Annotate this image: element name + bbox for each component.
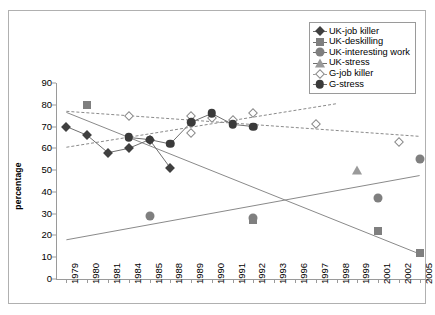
y-tick-label: 80 xyxy=(41,100,52,110)
legend-item[interactable]: UK-deskilling xyxy=(313,37,410,48)
legend-item-label: UK-stress xyxy=(329,58,370,67)
x-tick-label: 1992 xyxy=(257,263,267,284)
data-point xyxy=(124,133,133,142)
y-tick-label: 20 xyxy=(41,231,52,241)
x-tick-label: 1989 xyxy=(195,263,205,284)
data-point xyxy=(228,120,237,129)
data-point xyxy=(415,155,424,164)
legend-marker-glyph xyxy=(316,80,325,89)
legend-marker-icon xyxy=(313,37,327,47)
x-tick-mark xyxy=(378,279,379,283)
x-tick-label: 1988 xyxy=(174,263,184,284)
x-tick-mark xyxy=(66,279,67,283)
data-point xyxy=(249,214,258,223)
legend-marker-icon xyxy=(313,79,327,89)
data-point xyxy=(145,135,154,144)
legend-marker-icon xyxy=(313,69,327,79)
trendline xyxy=(66,111,419,136)
y-tick-label: 10 xyxy=(41,252,52,262)
legend-marker-icon xyxy=(313,26,327,36)
legend-item-label: G-job killer xyxy=(329,69,373,78)
trendline xyxy=(66,176,419,240)
y-axis-title: percentage xyxy=(13,162,23,209)
legend-marker-glyph xyxy=(315,59,325,68)
x-tick-mark xyxy=(212,279,213,283)
legend-item[interactable]: G-job killer xyxy=(313,68,410,79)
y-tick-label: 90 xyxy=(41,78,52,88)
x-tick-label: 1984 xyxy=(133,263,143,284)
legend-item[interactable]: G-stress xyxy=(313,79,410,90)
legend-item-label: UK-interesting work xyxy=(329,48,410,57)
data-point xyxy=(374,227,382,235)
legend-marker-glyph xyxy=(316,38,324,46)
legend-item[interactable]: UK-stress xyxy=(313,58,410,69)
x-tick-label: 1990 xyxy=(216,263,226,284)
data-point xyxy=(166,140,175,149)
x-tick-mark xyxy=(170,279,171,283)
x-tick-label: 1998 xyxy=(341,263,351,284)
chart-legend: UK-job killerUK-deskillingUK-interesting… xyxy=(309,22,416,94)
x-tick-mark xyxy=(274,279,275,283)
x-tick-label: 2002 xyxy=(403,263,413,284)
x-tick-label: 1981 xyxy=(112,263,122,284)
data-point xyxy=(249,122,258,131)
chart-frame: percentage 9080706050403020100 197919801… xyxy=(8,10,426,304)
x-tick-label: 1980 xyxy=(91,263,101,284)
x-tick-mark xyxy=(399,279,400,283)
x-tick-mark xyxy=(87,279,88,283)
x-tick-label: 1997 xyxy=(320,263,330,284)
x-tick-mark xyxy=(316,279,317,283)
data-point xyxy=(416,249,424,257)
x-tick-mark xyxy=(357,279,358,283)
x-tick-label: 2001 xyxy=(382,263,392,284)
legend-item[interactable]: UK-job killer xyxy=(313,26,410,37)
x-tick-label: 1993 xyxy=(278,263,288,284)
data-point xyxy=(83,101,91,109)
x-tick-mark xyxy=(420,279,421,283)
legend-marker-icon xyxy=(313,58,327,68)
x-tick-mark xyxy=(129,279,130,283)
x-tick-label: 1979 xyxy=(70,263,80,284)
x-tick-label: 2005 xyxy=(424,263,434,284)
x-tick-label: 1996 xyxy=(299,263,309,284)
x-tick-label: 1991 xyxy=(237,263,247,284)
legend-marker-glyph xyxy=(315,26,325,36)
legend-item-label: UK-job killer xyxy=(329,27,379,36)
legend-item-label: G-stress xyxy=(329,80,364,89)
data-point xyxy=(352,166,362,175)
y-tick-label: 70 xyxy=(41,122,52,132)
y-tick-label: 40 xyxy=(41,187,52,197)
data-point xyxy=(187,118,196,127)
plot-area: 9080706050403020100 xyxy=(56,83,430,279)
legend-marker-icon xyxy=(313,47,327,57)
x-tick-label: 1985 xyxy=(154,263,164,284)
y-tick-label: 60 xyxy=(41,144,52,154)
legend-item-label: UK-deskilling xyxy=(329,37,383,46)
legend-item[interactable]: UK-interesting work xyxy=(313,47,410,58)
x-tick-mark xyxy=(233,279,234,283)
trendline xyxy=(66,104,336,148)
x-tick-mark xyxy=(191,279,192,283)
data-point xyxy=(374,194,383,203)
y-tick-label: 50 xyxy=(41,165,52,175)
legend-marker-glyph xyxy=(315,69,325,79)
data-point xyxy=(145,211,154,220)
chart-screenshot: percentage 9080706050403020100 197919801… xyxy=(0,0,435,315)
x-tick-mark xyxy=(108,279,109,283)
x-tick-label: 1999 xyxy=(361,263,371,284)
x-tick-mark xyxy=(295,279,296,283)
x-tick-mark xyxy=(253,279,254,283)
x-tick-mark xyxy=(337,279,338,283)
data-point xyxy=(208,109,217,118)
legend-marker-glyph xyxy=(315,48,324,57)
trendline xyxy=(66,112,419,254)
x-tick-mark xyxy=(150,279,151,283)
x-axis-labels: 1979198019811984198519881989199019911992… xyxy=(56,284,431,315)
y-tick-label: 30 xyxy=(41,209,52,219)
trendlines-and-series-lines xyxy=(56,83,430,279)
